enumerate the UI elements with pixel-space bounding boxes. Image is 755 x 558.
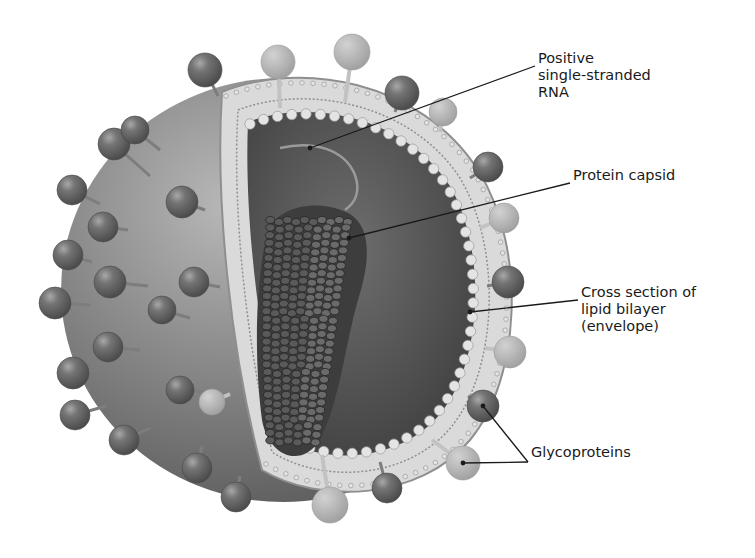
label-rna: Positivesingle-strandedRNA (538, 50, 651, 101)
label-line: Protein capsid (573, 167, 675, 184)
label-lipid-envelope: Cross section oflipid bilayer(envelope) (581, 284, 696, 335)
label-protein-capsid: Protein capsid (573, 167, 675, 184)
label-line: RNA (538, 84, 651, 101)
label-line: lipid bilayer (581, 301, 696, 318)
label-line: Cross section of (581, 284, 696, 301)
label-line: single-stranded (538, 67, 651, 84)
label-line: Glycoproteins (531, 444, 631, 461)
label-glycoproteins: Glycoproteins (531, 444, 631, 461)
label-line: (envelope) (581, 318, 696, 335)
label-line: Positive (538, 50, 651, 67)
